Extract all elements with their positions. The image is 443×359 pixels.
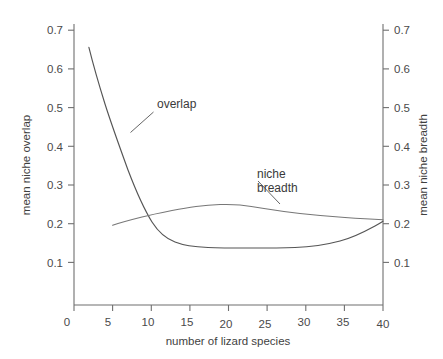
niche-breadth-curve	[113, 204, 383, 225]
right-tick-label-0.1: 0.1	[394, 257, 410, 269]
left-tick-label-0.5: 0.5	[47, 102, 63, 114]
left-tick-label-0.1: 0.1	[47, 257, 63, 269]
right-axis-ticks	[383, 30, 389, 262]
x-tick-label-25: 25	[259, 318, 272, 330]
x-tick-label-0: 0	[64, 316, 70, 328]
chart-figure: 0.7 0.6 0.5 0.4 0.3 0.2 0.1 0.7 0.6 0.5 …	[0, 0, 443, 359]
niche-breadth-series-label-line2: breadth	[257, 181, 298, 195]
overlap-series-label: overlap	[157, 97, 197, 111]
left-axis-ticks	[68, 30, 74, 262]
left-tick-label-0.2: 0.2	[47, 218, 63, 230]
x-tick-label-30: 30	[298, 316, 311, 328]
right-tick-label-0.4: 0.4	[394, 141, 411, 153]
y2-axis-title: mean niche breadth	[417, 114, 429, 216]
left-tick-label-0.4: 0.4	[47, 141, 64, 153]
x-tick-label-5: 5	[105, 316, 111, 328]
y-axis-title: mean niche overlap	[20, 115, 32, 215]
right-tick-label-0.2: 0.2	[394, 218, 410, 230]
right-tick-label-0.3: 0.3	[394, 179, 410, 191]
overlap-leader-line	[131, 112, 154, 133]
niche-breadth-series-label-line1: niche	[257, 167, 286, 181]
x-tick-label-20: 20	[220, 318, 233, 330]
overlap-curve	[89, 47, 383, 248]
right-tick-label-0.6: 0.6	[394, 63, 410, 75]
x-tick-label-15: 15	[181, 316, 194, 328]
x-axis-ticks	[74, 305, 383, 311]
x-tick-label-35: 35	[337, 316, 350, 328]
left-tick-label-0.6: 0.6	[47, 63, 63, 75]
x-axis-title: number of lizard species	[166, 335, 291, 347]
left-tick-label-0.7: 0.7	[47, 24, 63, 36]
right-tick-label-0.5: 0.5	[394, 102, 410, 114]
x-tick-label-40: 40	[377, 318, 390, 330]
x-tick-label-10: 10	[142, 316, 155, 328]
left-tick-label-0.3: 0.3	[47, 179, 63, 191]
right-tick-label-0.7: 0.7	[394, 24, 410, 36]
chart-svg: 0.7 0.6 0.5 0.4 0.3 0.2 0.1 0.7 0.6 0.5 …	[0, 0, 443, 359]
